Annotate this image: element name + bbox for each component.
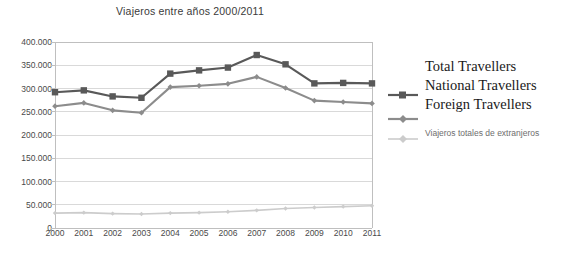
x-axis-tick-label: 2007 [247,228,266,238]
legend-swatch [387,130,419,140]
legend-label-en: Total Travellers [425,58,516,75]
data-point-marker [340,80,346,86]
data-point-marker [340,99,346,105]
data-point-marker [226,210,230,214]
x-axis-tick-label: 2009 [305,228,324,238]
legend-swatch [387,86,419,96]
data-point-marker [369,101,375,107]
data-point-marker [311,80,317,86]
x-axis-tick-label: 2008 [276,228,295,238]
data-point-marker [225,81,231,87]
data-point-marker [81,100,87,106]
series-line [55,206,372,214]
data-point-marker [110,108,116,114]
x-axis-tick-label: 2005 [190,228,209,238]
data-point-marker [255,208,259,212]
data-point-marker [139,212,143,216]
data-series-group [52,52,375,216]
legend-label-es: Viajeros totales de extranjeros [425,128,539,138]
x-axis-tick-label: 2011 [363,228,381,238]
x-axis-tick-labels: 2000200120022003200420052006200720082009… [0,228,380,246]
data-point-marker [370,203,374,207]
data-point-marker [254,74,260,80]
data-point-marker [196,83,202,89]
data-point-marker [82,210,86,214]
data-point-marker [81,87,87,93]
x-axis-tick-label: 2004 [161,228,180,238]
data-point-marker [225,64,231,70]
data-point-marker [312,205,316,209]
series-line [55,55,372,98]
chart-container: Viajeros entre años 2000/2011 050.000100… [0,0,564,255]
data-point-marker [196,67,202,73]
data-point-marker [254,52,260,58]
data-point-marker [110,211,114,215]
legend-swatch [387,110,419,120]
data-point-marker [53,211,57,215]
data-series [53,203,374,216]
data-series [52,52,375,101]
data-point-marker [369,80,375,86]
chart-legend: Viajeros totales de extranjerosTotal Tra… [385,58,564,158]
legend-label-en: National Travellers [425,77,537,94]
x-axis-tick-label: 2000 [46,228,65,238]
x-axis-tick-label: 2002 [103,228,122,238]
data-point-marker [52,89,58,95]
data-point-marker [168,211,172,215]
plot-area [0,38,380,238]
plot-svg [0,38,380,238]
legend-label-en: Foreign Travellers [425,96,532,113]
data-point-marker [197,210,201,214]
data-point-marker [109,93,115,99]
x-axis-tick-label: 2006 [218,228,237,238]
data-point-marker [52,103,58,109]
data-point-marker [282,61,288,67]
x-axis-tick-label: 2003 [132,228,151,238]
chart-title: Viajeros entre años 2000/2011 [0,5,380,17]
data-point-marker [283,206,287,210]
data-point-marker [167,70,173,76]
x-axis-tick-label: 2001 [74,228,93,238]
data-point-marker [138,95,144,101]
x-axis-tick-label: 2010 [334,228,353,238]
